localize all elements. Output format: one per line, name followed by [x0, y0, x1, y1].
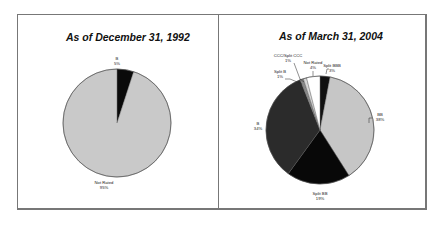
right-label-splitbb-pct: 19% — [316, 196, 325, 201]
right-label-ccc-pct: 1% — [285, 58, 291, 63]
right-pie-chart — [266, 76, 374, 184]
left-pie-chart — [63, 69, 171, 177]
left-label-notrated-pct: 95% — [100, 185, 109, 190]
pie-slice — [63, 69, 171, 177]
right-label-b-pct: 34% — [254, 126, 263, 131]
left-label-b-pct: 5% — [114, 61, 120, 66]
right-label-notrated-pct: 4% — [310, 65, 316, 70]
right-label-splitb-pct: 1% — [277, 74, 283, 79]
pie-charts: B 5% Not Rated 95% Split BBB 3% BB 38% S… — [0, 0, 443, 225]
right-label-bb-pct: 38% — [376, 117, 385, 122]
right-label-splitbbb-pct: 3% — [329, 68, 335, 73]
